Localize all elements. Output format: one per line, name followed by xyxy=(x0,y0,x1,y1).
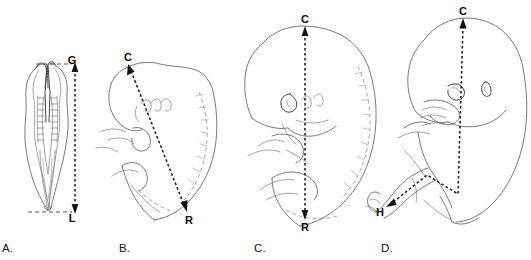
panel-c-label-c: C xyxy=(301,13,309,25)
panel-letter-d: D. xyxy=(381,242,393,254)
panel-a-label-l: L xyxy=(69,212,76,224)
panel-c-arrowhead-rump xyxy=(302,210,309,220)
panel-b-arrowhead-rump xyxy=(181,200,188,212)
embryo-measurement-figure: G L C R C R C H A. B. C. D. xyxy=(0,0,531,260)
panel-c-arrowhead-crown xyxy=(302,26,309,36)
panel-b-label-r: R xyxy=(185,214,193,226)
panel-d-arrowhead-crown xyxy=(459,18,466,29)
panel-a-artwork xyxy=(25,62,79,214)
panel-c-artwork xyxy=(245,26,376,226)
panel-b-artwork xyxy=(96,62,217,220)
panel-b-measure-line xyxy=(131,71,184,205)
panel-letter-c: C. xyxy=(254,242,266,254)
panel-a-label-g: G xyxy=(68,54,77,66)
panel-letter-a: A. xyxy=(2,242,13,254)
panel-b-label-c: C xyxy=(124,51,132,63)
panel-letter-b: B. xyxy=(119,242,130,254)
panel-d-artwork xyxy=(366,18,527,224)
figure-canvas: G L C R C R C H A. B. C. D. xyxy=(0,0,531,260)
panel-c-label-r: R xyxy=(301,221,309,233)
panel-d-measure-line xyxy=(392,26,463,203)
panel-d-label-c: C xyxy=(459,5,467,17)
panel-d-label-h: H xyxy=(376,206,384,218)
